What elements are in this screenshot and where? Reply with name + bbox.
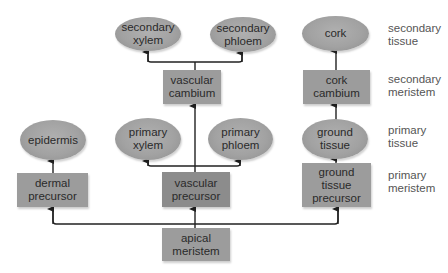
node-secondary-phloem: secondary phloem	[210, 17, 276, 52]
node-vascular-precursor-label: vascular precursor	[166, 177, 226, 203]
node-epidermis: epidermis	[20, 120, 86, 160]
node-ground-tissue-precursor-label: ground tissue precursor	[307, 166, 367, 205]
node-cork-label: cork	[325, 27, 347, 40]
node-epidermis-label: epidermis	[28, 134, 78, 147]
node-primary-xylem: primary xylem	[115, 118, 181, 160]
node-primary-xylem-label: primary xylem	[123, 126, 173, 152]
row-label-primary-tissue: primary tissue	[388, 124, 448, 150]
node-primary-phloem: primary phloem	[208, 118, 273, 160]
node-ground-tissue-precursor: ground tissue precursor	[302, 163, 371, 207]
node-ground-tissue-label: ground tissue	[310, 126, 360, 152]
node-dermal-precursor-label: dermal precursor	[23, 177, 83, 203]
node-cork-cambium-label: cork cambium	[312, 74, 362, 100]
node-dermal-precursor: dermal precursor	[17, 173, 88, 207]
node-secondary-phloem-label: secondary phloem	[215, 22, 271, 48]
node-apical-meristem-label: apical meristem	[168, 232, 224, 258]
node-apical-meristem: apical meristem	[162, 228, 230, 261]
node-secondary-xylem: secondary xylem	[115, 17, 181, 51]
row-label-secondary-meristem: secondary meristem	[388, 73, 448, 99]
node-primary-phloem-label: primary phloem	[216, 126, 266, 152]
node-cork: cork	[302, 16, 369, 51]
row-label-secondary-tissue: secondary tissue	[388, 22, 448, 48]
node-ground-tissue: ground tissue	[302, 119, 368, 159]
row-label-primary-meristem: primary meristem	[388, 169, 448, 195]
node-cork-cambium: cork cambium	[303, 70, 370, 104]
plant-tissue-development-diagram: secondary xylem secondary phloem cork va…	[0, 0, 448, 273]
node-secondary-xylem-label: secondary xylem	[120, 21, 176, 47]
node-vascular-cambium-label: vascular cambium	[167, 74, 217, 100]
node-vascular-cambium: vascular cambium	[163, 70, 221, 104]
node-vascular-precursor: vascular precursor	[162, 172, 230, 207]
